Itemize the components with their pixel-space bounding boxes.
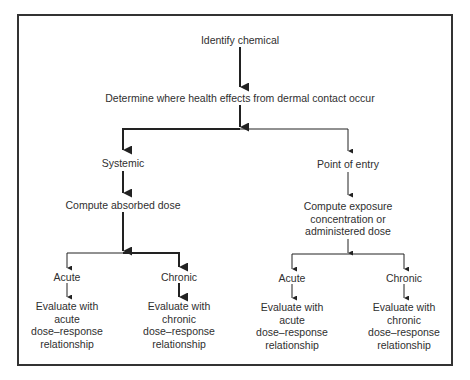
node-left-acute: Acute bbox=[54, 271, 81, 284]
node-right-chronic: Chronic bbox=[386, 272, 422, 285]
node-left-chronic-evaluate: Evaluate with chronic dose–response rela… bbox=[143, 300, 215, 350]
node-point-of-entry: Point of entry bbox=[317, 158, 379, 171]
node-right-chronic-evaluate: Evaluate with chronic dose–response rela… bbox=[368, 301, 440, 351]
line: dose–response bbox=[143, 325, 215, 338]
edge-to-systemic bbox=[123, 129, 240, 150]
node-determine-health-effects: Determine where health effects from derm… bbox=[105, 92, 374, 105]
line: Evaluate with bbox=[31, 300, 103, 313]
edge-to-right-acute bbox=[292, 254, 348, 269]
line: Compute exposure bbox=[304, 200, 393, 213]
line: dose–response bbox=[368, 326, 440, 339]
line: relationship bbox=[368, 339, 440, 352]
node-left-chronic: Chronic bbox=[161, 271, 197, 284]
node-compute-absorbed-dose: Compute absorbed dose bbox=[66, 199, 181, 212]
node-compute-exposure: Compute exposure concentration or admini… bbox=[304, 200, 393, 238]
line: relationship bbox=[31, 338, 103, 351]
line: dose–response bbox=[256, 326, 328, 339]
line: Evaluate with bbox=[368, 301, 440, 314]
edge-to-point-of-entry bbox=[240, 129, 348, 151]
node-right-acute-evaluate: Evaluate with acute dose–response relati… bbox=[256, 301, 328, 351]
line: Evaluate with bbox=[256, 301, 328, 314]
line: administered dose bbox=[304, 225, 393, 238]
line: chronic bbox=[368, 314, 440, 327]
node-left-acute-evaluate: Evaluate with acute dose–response relati… bbox=[31, 300, 103, 350]
node-systemic: Systemic bbox=[102, 157, 145, 170]
line: acute bbox=[31, 313, 103, 326]
line: acute bbox=[256, 314, 328, 327]
node-identify-chemical: Identify chemical bbox=[201, 34, 279, 47]
line: relationship bbox=[256, 339, 328, 352]
node-right-acute: Acute bbox=[279, 272, 306, 285]
edge-to-left-chronic bbox=[123, 253, 179, 267]
line: dose–response bbox=[31, 325, 103, 338]
line: chronic bbox=[143, 313, 215, 326]
edge-to-left-acute bbox=[67, 253, 123, 268]
line: Evaluate with bbox=[143, 300, 215, 313]
line: concentration or bbox=[304, 213, 393, 226]
edge-to-right-chronic bbox=[348, 254, 404, 269]
line: relationship bbox=[143, 338, 215, 351]
